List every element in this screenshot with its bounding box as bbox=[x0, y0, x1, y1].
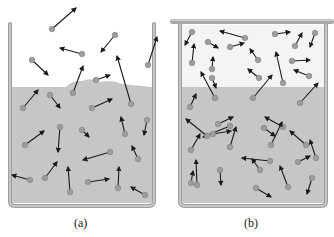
molecule-ball-icon bbox=[57, 124, 63, 130]
molecule-ball-icon bbox=[49, 26, 55, 32]
molecule-ball-icon bbox=[227, 144, 233, 150]
velocity-arrow-icon bbox=[60, 48, 82, 54]
panel-label-a: (a) bbox=[74, 216, 87, 231]
molecule-ball-icon bbox=[285, 184, 291, 190]
molecule-ball-icon bbox=[189, 60, 195, 66]
container-a bbox=[10, 8, 157, 206]
molecule-ball-icon bbox=[250, 95, 256, 101]
liquid-a bbox=[12, 79, 152, 203]
molecule bbox=[29, 57, 48, 75]
molecule-ball-icon bbox=[20, 105, 26, 111]
molecule-ball-icon bbox=[217, 167, 223, 173]
molecule-ball-icon bbox=[212, 95, 218, 101]
velocity-arrow-icon bbox=[52, 8, 76, 29]
molecule-ball-icon bbox=[292, 43, 298, 49]
molecule-ball-icon bbox=[27, 177, 33, 183]
panel-label-b: (b) bbox=[244, 216, 258, 231]
molecule-ball-icon bbox=[242, 35, 248, 41]
molecule-ball-icon bbox=[22, 142, 28, 148]
molecule bbox=[60, 48, 85, 57]
molecule-ball-icon bbox=[255, 57, 261, 63]
molecule-ball-icon bbox=[209, 66, 215, 72]
molecule-ball-icon bbox=[135, 156, 141, 162]
molecule-ball-icon bbox=[70, 90, 76, 96]
molecule-ball-icon bbox=[297, 100, 303, 106]
molecule-ball-icon bbox=[267, 158, 273, 164]
molecule-ball-icon bbox=[79, 51, 85, 57]
molecule-ball-icon bbox=[268, 142, 274, 148]
molecule-ball-icon bbox=[312, 30, 318, 36]
velocity-arrow-icon bbox=[101, 35, 115, 52]
molecule-ball-icon bbox=[128, 101, 134, 107]
molecule bbox=[49, 8, 76, 32]
molecule-ball-icon bbox=[144, 117, 150, 123]
molecule-ball-icon bbox=[227, 44, 233, 50]
molecule-ball-icon bbox=[272, 31, 278, 37]
molecule-ball-icon bbox=[189, 29, 195, 35]
molecule-ball-icon bbox=[112, 32, 118, 38]
molecule-ball-icon bbox=[303, 142, 309, 148]
molecule-ball-icon bbox=[187, 104, 193, 110]
molecule-ball-icon bbox=[89, 105, 95, 111]
molecule-ball-icon bbox=[85, 179, 91, 185]
molecule-ball-icon bbox=[67, 189, 73, 195]
molecule-ball-icon bbox=[309, 175, 315, 181]
molecule-ball-icon bbox=[253, 185, 259, 191]
molecule-ball-icon bbox=[79, 127, 85, 133]
molecule-ball-icon bbox=[107, 149, 113, 155]
molecule bbox=[101, 32, 118, 52]
molecule-ball-icon bbox=[209, 75, 215, 81]
molecule-ball-icon bbox=[145, 62, 151, 68]
molecule-ball-icon bbox=[215, 121, 221, 127]
molecule-ball-icon bbox=[42, 175, 48, 181]
molecule-ball-icon bbox=[227, 123, 233, 129]
molecule-ball-icon bbox=[47, 92, 53, 98]
molecule-ball-icon bbox=[280, 80, 286, 86]
molecule-ball-icon bbox=[122, 131, 128, 137]
molecule-ball-icon bbox=[289, 58, 295, 64]
molecule-ball-icon bbox=[142, 192, 148, 198]
molecule-ball-icon bbox=[306, 73, 312, 79]
molecule-ball-icon bbox=[313, 155, 319, 161]
molecule-ball-icon bbox=[295, 159, 301, 165]
molecule-ball-icon bbox=[204, 133, 210, 139]
molecule-ball-icon bbox=[257, 167, 263, 173]
molecule-ball-icon bbox=[205, 39, 211, 45]
molecule-ball-icon bbox=[194, 182, 200, 188]
molecule-ball-icon bbox=[29, 57, 35, 63]
molecule-ball-icon bbox=[93, 77, 99, 83]
velocity-arrow-icon bbox=[32, 60, 48, 75]
molecule-ball-icon bbox=[115, 185, 121, 191]
molecule-ball-icon bbox=[256, 75, 262, 81]
vapor-pressure-diagram bbox=[0, 0, 334, 237]
molecule-ball-icon bbox=[261, 125, 267, 131]
molecule-ball-icon bbox=[188, 180, 194, 186]
container-b bbox=[170, 19, 334, 206]
molecule-ball-icon bbox=[188, 147, 194, 153]
molecule-ball-icon bbox=[210, 131, 216, 137]
